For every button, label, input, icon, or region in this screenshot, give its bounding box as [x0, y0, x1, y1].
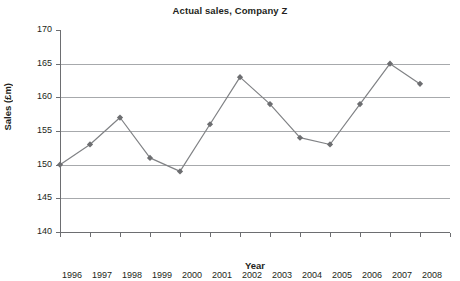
y-axis-tick-label: 150 [26, 159, 52, 169]
y-axis-tick-label: 160 [26, 91, 52, 101]
y-axis-tick-label: 165 [26, 58, 52, 68]
y-axis-tick-label: 140 [26, 226, 52, 236]
y-axis-tick-label: 170 [26, 24, 52, 34]
data-point-marker [57, 162, 63, 168]
y-axis-tick-label: 145 [26, 192, 52, 202]
x-axis-tick-mark [420, 233, 421, 237]
x-axis-tick-mark [120, 233, 121, 237]
x-axis-tick-mark [390, 233, 391, 237]
x-axis-tick-label: 2006 [357, 270, 387, 280]
plot-area: 140145150155160165170 199619971998199920… [60, 30, 450, 232]
x-axis-tick-label: 2007 [387, 270, 417, 280]
x-axis-tick-label: 2002 [237, 270, 267, 280]
x-axis-tick-mark [360, 233, 361, 237]
x-axis-tick-label: 1999 [147, 270, 177, 280]
x-axis-tick-label: 1997 [87, 270, 117, 280]
x-axis-tick-mark [240, 233, 241, 237]
y-axis-title: Sales (£m) [2, 83, 16, 131]
x-axis-tick-mark [300, 233, 301, 237]
data-point-marker [177, 168, 183, 174]
data-point-marker [207, 121, 213, 127]
x-axis-tick-label: 1998 [117, 270, 147, 280]
x-axis-tick-mark [210, 233, 211, 237]
x-axis-tick-label: 2005 [327, 270, 357, 280]
x-axis-tick-mark [330, 233, 331, 237]
x-axis-tick-label: 1996 [57, 270, 87, 280]
y-axis-tick-label: 155 [26, 125, 52, 135]
x-axis-tick-label: 2003 [267, 270, 297, 280]
x-axis-tick-label: 2004 [297, 270, 327, 280]
chart-title: Actual sales, Company Z [0, 5, 460, 16]
data-series-actual-sales [60, 30, 450, 233]
x-axis-tick-label: 2008 [417, 270, 447, 280]
x-axis-tick-mark [450, 233, 451, 237]
x-axis-tick-mark [90, 233, 91, 237]
x-axis-tick-mark [60, 233, 61, 237]
line-chart: Actual sales, Company Z Sales (£m) Year … [0, 0, 460, 281]
x-axis-tick-mark [180, 233, 181, 237]
x-axis-tick-label: 2000 [177, 270, 207, 280]
x-axis-tick-label: 2001 [207, 270, 237, 280]
x-axis-tick-mark [150, 233, 151, 237]
data-point-marker [417, 81, 423, 87]
x-axis-tick-mark [270, 233, 271, 237]
